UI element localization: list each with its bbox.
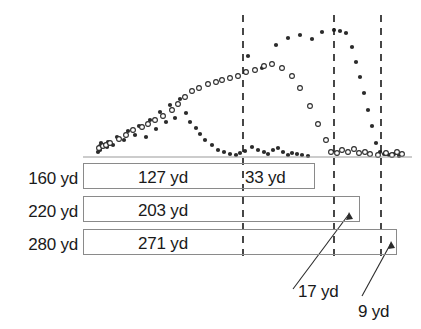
data-point-open — [170, 108, 175, 113]
data-point-open — [400, 152, 405, 157]
data-point-open — [236, 74, 241, 79]
data-point-open — [161, 114, 166, 119]
data-point-open — [368, 152, 373, 157]
filled-marker-group — [96, 28, 401, 158]
data-point-filled — [250, 145, 254, 149]
data-point-filled — [210, 143, 214, 147]
data-point-filled — [158, 110, 162, 114]
data-point-filled — [246, 54, 250, 58]
data-point-filled — [178, 97, 182, 101]
data-point-filled — [295, 152, 299, 156]
data-point-filled — [198, 132, 202, 136]
data-point-filled — [266, 152, 270, 156]
data-point-open — [262, 64, 267, 69]
data-point-open — [220, 78, 225, 83]
data-point-open — [228, 76, 233, 81]
data-point-filled — [281, 150, 285, 154]
data-point-filled — [310, 37, 314, 41]
bar-row-label-160yd: 160 yd — [6, 170, 78, 187]
data-point-open — [214, 80, 219, 85]
data-point-filled — [358, 75, 362, 79]
data-point-filled — [276, 146, 280, 150]
data-point-open — [363, 150, 368, 155]
bar-segment-value-127yd: 127 yd — [83, 169, 243, 186]
data-point-filled — [173, 116, 177, 120]
data-point-filled — [144, 135, 148, 139]
data-point-open — [146, 122, 151, 127]
data-point-filled — [338, 29, 342, 33]
data-point-filled — [286, 36, 290, 40]
data-point-filled — [274, 43, 278, 47]
data-point-filled — [271, 148, 275, 152]
data-point-open — [298, 86, 303, 91]
callout-label-17yd: 17 yd — [298, 283, 339, 300]
data-point-open — [131, 128, 136, 133]
data-point-filled — [164, 120, 168, 124]
data-point-open — [329, 150, 334, 155]
data-point-open — [384, 151, 389, 156]
bar-segment-value-271yd: 271 yd — [83, 235, 243, 252]
data-point-open — [244, 70, 249, 75]
data-point-filled — [290, 151, 294, 155]
data-point-open — [357, 151, 362, 156]
data-point-open — [290, 74, 295, 79]
data-point-filled — [354, 60, 358, 64]
data-point-open — [117, 137, 122, 142]
data-point-open — [108, 141, 113, 146]
data-point-open — [183, 95, 188, 100]
data-point-filled — [154, 127, 158, 131]
data-point-open — [340, 148, 345, 153]
data-point-filled — [188, 120, 192, 124]
data-point-open — [395, 150, 400, 155]
data-point-open — [197, 86, 202, 91]
data-point-filled — [262, 150, 266, 154]
data-point-filled — [203, 138, 207, 142]
bar-row-label-280yd: 280 yd — [6, 236, 78, 253]
data-point-open — [280, 66, 285, 71]
bar-row-label-220yd: 220 yd — [6, 203, 78, 220]
data-point-filled — [133, 133, 137, 137]
data-point-filled — [344, 31, 348, 35]
data-point-open — [190, 89, 195, 94]
data-point-open — [346, 150, 351, 155]
data-point-open — [324, 138, 329, 143]
data-point-filled — [298, 33, 302, 37]
data-point-filled — [362, 91, 366, 95]
callout-label-9yd: 9 yd — [358, 303, 389, 320]
data-point-filled — [184, 111, 188, 115]
data-point-filled — [350, 45, 354, 49]
data-point-open — [316, 122, 321, 127]
data-point-filled — [222, 150, 226, 154]
data-point-filled — [194, 126, 198, 130]
bar-segment-value-203yd: 203 yd — [83, 202, 243, 219]
data-point-filled — [366, 108, 370, 112]
data-point-filled — [374, 141, 378, 145]
figure-container: 160 yd 127 yd 33 yd 220 yd 203 yd 280 yd… — [0, 0, 421, 329]
data-point-filled — [216, 148, 220, 152]
bar-segment-value-33yd: 33 yd — [245, 169, 313, 186]
data-point-open — [176, 102, 181, 107]
data-point-open — [335, 151, 340, 156]
data-point-open — [270, 62, 275, 67]
data-point-filled — [228, 152, 232, 156]
data-point-open — [153, 118, 158, 123]
data-point-filled — [168, 103, 172, 107]
data-point-open — [308, 104, 313, 109]
data-point-open — [124, 133, 129, 138]
data-point-open — [140, 125, 145, 130]
data-point-filled — [238, 151, 242, 155]
data-point-open — [206, 82, 211, 87]
data-point-filled — [122, 138, 126, 142]
data-point-filled — [320, 30, 324, 34]
data-point-open — [352, 147, 357, 152]
data-point-filled — [370, 124, 374, 128]
data-point-open — [253, 68, 258, 73]
data-point-filled — [256, 148, 260, 152]
